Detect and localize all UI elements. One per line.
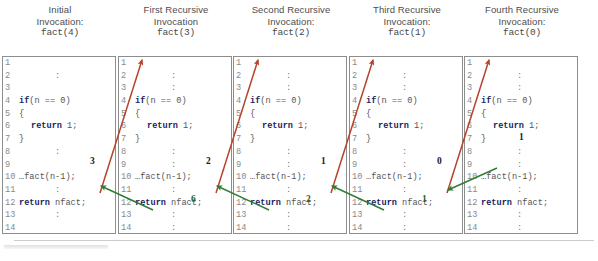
- code-line: 13:: [119, 209, 231, 222]
- code-line-number: 14: [467, 222, 480, 234]
- code-line-text: {: [481, 108, 486, 121]
- code-line: 12return nfact;: [465, 197, 577, 210]
- code-line-number: 6: [5, 120, 18, 133]
- code-text-span: 1;: [293, 121, 308, 131]
- code-line: 9:: [119, 159, 231, 172]
- code-line: 11:: [3, 184, 115, 197]
- call-frame-panel: Second RecursiveInvocation:fact(2)12:3:4…: [233, 4, 349, 236]
- panel-header-line2: Invocation:: [233, 16, 349, 28]
- code-text-span: …fact(n-1);: [250, 172, 307, 182]
- code-keyword: return: [366, 198, 397, 208]
- code-line-number: 9: [236, 159, 249, 172]
- panel-header-call: fact(4): [2, 27, 118, 39]
- code-line-number: 6: [352, 120, 365, 133]
- code-line-number: 5: [5, 108, 18, 121]
- code-line: 8:: [3, 146, 115, 159]
- code-line-number: 14: [121, 222, 134, 234]
- code-line-number: 3: [236, 82, 249, 95]
- call-frame-panel: Fourth RecursiveInvocation:fact(0)12:3:4…: [464, 4, 580, 236]
- code-line-number: 11: [5, 184, 18, 197]
- code-ellipsis-colon: :: [171, 184, 176, 197]
- code-line: 12return nfact;: [350, 197, 462, 210]
- code-line-text: return nfact;: [19, 197, 86, 210]
- code-ellipsis-colon: :: [286, 184, 291, 197]
- code-line-number: 13: [5, 209, 18, 222]
- code-text-span: }: [481, 134, 486, 144]
- panel-header-line1: Second Recursive: [233, 4, 349, 16]
- code-line: 5{: [3, 108, 115, 121]
- code-line-number: 5: [121, 108, 134, 121]
- panel-header-line1: Initial: [2, 4, 118, 16]
- code-line: 14:: [465, 222, 577, 234]
- code-ellipsis-colon: :: [402, 146, 407, 159]
- code-line-text: return 1;: [147, 120, 193, 133]
- argument-value-label: 2: [206, 156, 211, 166]
- code-line: 9:: [350, 159, 462, 172]
- code-line: 10…fact(n-1);: [119, 171, 231, 184]
- code-line-number: 5: [236, 108, 249, 121]
- code-line-text: if(n == 0): [135, 95, 187, 108]
- code-line-number: 8: [352, 146, 365, 159]
- code-line: 7}: [350, 133, 462, 146]
- code-line-number: 1: [236, 57, 249, 70]
- code-line: 14:: [119, 222, 231, 234]
- code-line-number: 3: [467, 82, 480, 95]
- code-line-number: 13: [467, 209, 480, 222]
- code-line: 12return nfact;: [234, 197, 346, 210]
- code-ellipsis-colon: :: [171, 222, 176, 234]
- panel-header-line1: Third Recursive: [349, 4, 465, 16]
- scan-artifact-line: [14, 240, 594, 241]
- panel-header-line1: Fourth Recursive: [464, 4, 580, 16]
- code-line: 1: [119, 57, 231, 70]
- code-ellipsis-colon: :: [402, 82, 407, 95]
- code-text-span: }: [19, 134, 24, 144]
- code-line-number: 10: [467, 171, 480, 184]
- code-text-span: (n == 0): [145, 96, 186, 106]
- code-ellipsis-colon: :: [517, 184, 522, 197]
- code-keyword: if: [366, 96, 376, 106]
- code-line-text: }: [366, 133, 371, 146]
- code-ellipsis-colon: :: [171, 146, 176, 159]
- code-line-number: 9: [121, 159, 134, 172]
- panel-header-line2: Invocation:: [2, 16, 118, 28]
- code-line: 4if(n == 0): [3, 95, 115, 108]
- code-line: 14:: [234, 222, 346, 234]
- code-line-number: 1: [121, 57, 134, 70]
- scan-artifact-block: [4, 245, 108, 249]
- code-line-text: {: [19, 108, 24, 121]
- code-line: 7}: [3, 133, 115, 146]
- code-text-span: 1;: [524, 121, 539, 131]
- code-line: 7}: [234, 133, 346, 146]
- code-line-text: }: [250, 133, 255, 146]
- code-line-number: 2: [236, 70, 249, 83]
- code-line-text: }: [481, 133, 486, 146]
- code-line: 8:: [465, 146, 577, 159]
- code-line-text: …fact(n-1);: [250, 171, 307, 184]
- code-box: 12:34if(n == 0)5{6return 1;7}8:910…fact(…: [2, 56, 116, 234]
- code-line: 1: [350, 57, 462, 70]
- code-line-text: …fact(n-1);: [135, 171, 192, 184]
- figure-canvas: InitialInvocation:fact(4)12:34if(n == 0)…: [0, 0, 598, 261]
- code-text-span: }: [366, 134, 371, 144]
- code-line: 12return nfact;: [119, 197, 231, 210]
- code-text-span: 1;: [62, 121, 77, 131]
- code-line-number: 1: [5, 57, 18, 70]
- code-line-number: 8: [5, 146, 18, 159]
- code-line: 6return 1;: [234, 120, 346, 133]
- code-line: 3:: [465, 82, 577, 95]
- code-line-text: return 1;: [493, 120, 539, 133]
- code-line-number: 7: [467, 133, 480, 146]
- code-text-span: nfact;: [281, 198, 317, 208]
- code-line-number: 12: [121, 197, 134, 210]
- code-line: 8:: [350, 146, 462, 159]
- code-line-number: 4: [352, 95, 365, 108]
- code-line: 14: [3, 222, 115, 234]
- code-line-number: 4: [467, 95, 480, 108]
- code-line-number: 10: [121, 171, 134, 184]
- code-line-number: 2: [352, 70, 365, 83]
- code-line-number: 14: [236, 222, 249, 234]
- code-ellipsis-colon: :: [517, 222, 522, 234]
- code-line: 3:: [350, 82, 462, 95]
- return-value-label: 1: [422, 194, 427, 204]
- code-text-span: …fact(n-1);: [481, 172, 538, 182]
